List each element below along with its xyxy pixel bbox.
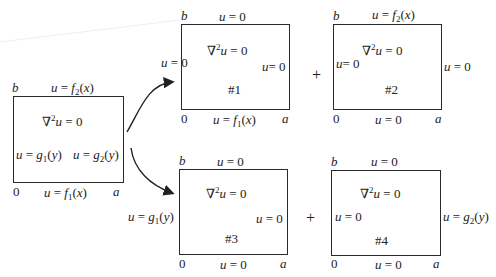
- left-bc-label: u = g1(y): [16, 148, 62, 166]
- right-bc-label: u = g2(y): [73, 148, 119, 166]
- bottom-bc-label: u = 0: [220, 258, 247, 272]
- corner-a-label: a: [282, 112, 289, 126]
- corner-b-label: b: [333, 9, 340, 23]
- equation-label: ∇2u = 0: [360, 183, 400, 201]
- top-bc-label: u = 0: [371, 155, 398, 169]
- subproblem-id: #4: [375, 234, 388, 248]
- corner-b-label: b: [331, 155, 338, 169]
- plus-operator: +: [312, 66, 321, 84]
- corner-0-label: 0: [179, 257, 186, 271]
- equation-label: ∇2u = 0: [206, 183, 246, 201]
- equation-label: ∇2u = 0: [207, 40, 247, 58]
- top-bc-label: u = 0: [217, 155, 244, 169]
- right-bc-label: u = g2(y): [443, 210, 489, 228]
- corner-0-label: 0: [331, 257, 338, 271]
- left-bc-label: u = 0: [335, 210, 362, 224]
- corner-a-label: a: [280, 257, 287, 271]
- right-bc-label: u = 0: [256, 212, 283, 226]
- subproblem-id: #1: [228, 83, 241, 97]
- left-bc-label: u = 0: [161, 56, 188, 70]
- corner-a-label: a: [113, 185, 120, 199]
- arrow-to-bottom: [131, 148, 172, 193]
- equation-label: ∇2u = 0: [42, 111, 82, 129]
- left-bc-label: u= 0: [336, 57, 360, 71]
- corner-b-label: b: [12, 81, 19, 95]
- top-bc-label: u = 0: [219, 10, 246, 24]
- bottom-bc-label: u = f1(x): [213, 113, 256, 131]
- right-bc-label: u = 0: [444, 60, 471, 74]
- arrow-to-top: [127, 82, 172, 132]
- equation-label: ∇2u = 0: [362, 40, 402, 58]
- corner-b-label: b: [179, 154, 186, 168]
- corner-a-label: a: [435, 112, 442, 126]
- top-bc-label: u = f2(x): [372, 8, 415, 26]
- subproblem-id: #2: [385, 83, 398, 97]
- right-bc-label: u= 0: [262, 60, 286, 74]
- corner-b-label: b: [181, 9, 188, 23]
- corner-0-label: 0: [333, 112, 340, 126]
- plus-operator: +: [306, 209, 315, 227]
- left-bc-label: u = g1(y): [128, 210, 174, 228]
- corner-0-label: 0: [181, 112, 188, 126]
- subproblem-id: #3: [225, 232, 238, 246]
- top-bc-label: u = f2(x): [51, 81, 94, 99]
- corner-a-label: a: [433, 257, 440, 271]
- original-rectangle: [13, 96, 124, 183]
- bottom-bc-label: u = 0: [375, 258, 402, 272]
- corner-0-label: 0: [13, 185, 20, 199]
- bottom-bc-label: u = 0: [375, 113, 402, 127]
- bottom-bc-label: u = f1(x): [44, 186, 87, 204]
